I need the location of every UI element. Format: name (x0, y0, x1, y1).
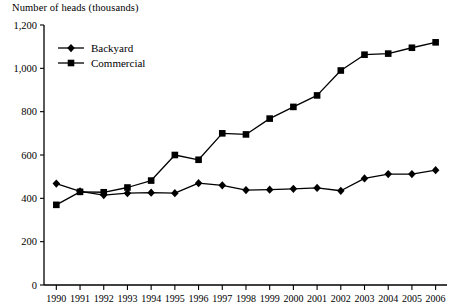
series-marker (100, 189, 107, 196)
legend-item-commercial: Commercial (58, 57, 145, 69)
series-marker (361, 51, 368, 58)
series-marker (195, 179, 203, 187)
x-axis-tick-label: 1993 (117, 293, 137, 304)
x-axis-tick-label: 1995 (165, 293, 185, 304)
series-marker (218, 181, 226, 189)
series-marker (385, 50, 392, 57)
y-axis-tick-label: 1,200 (13, 20, 37, 31)
x-axis-tick-label: 2001 (307, 293, 327, 304)
series-marker (195, 156, 202, 163)
x-axis-tick-label: 1999 (260, 293, 280, 304)
series-marker (77, 189, 84, 196)
y-axis-tick-label: 600 (21, 150, 37, 161)
series-marker (219, 130, 226, 137)
series-marker (337, 67, 344, 74)
series-marker (53, 202, 60, 209)
x-axis-tick-label: 2004 (378, 293, 398, 304)
series-marker (313, 184, 321, 192)
x-axis-tick-label: 2000 (283, 293, 303, 304)
series-marker (53, 179, 61, 187)
x-axis-tick-label: 1992 (94, 293, 114, 304)
series-marker (124, 184, 131, 191)
chart-container: Number of heads (thousands) 020040060080… (0, 0, 451, 308)
x-axis-tick-label: 2006 (426, 293, 446, 304)
series-marker (384, 170, 392, 178)
series-marker (67, 44, 75, 52)
y-axis-tick-label: 0 (32, 280, 37, 291)
series-marker (361, 174, 369, 182)
series-marker (68, 60, 75, 67)
legend-label: Commercial (91, 57, 145, 69)
x-axis-tick-label: 1994 (141, 293, 161, 304)
series-marker (243, 131, 250, 138)
series-marker (147, 189, 155, 197)
series-marker (148, 177, 155, 184)
y-axis-tick-label: 400 (21, 193, 37, 204)
y-axis-tick-label: 200 (21, 236, 37, 247)
x-axis-tick-label: 2005 (402, 293, 422, 304)
series-backyard (53, 166, 440, 199)
series-marker (337, 187, 345, 195)
series-marker (171, 189, 179, 197)
legend-item-backyard: Backyard (58, 42, 134, 54)
x-axis-tick-label: 1997 (212, 293, 232, 304)
legend-label: Backyard (91, 42, 134, 54)
series-marker (314, 92, 321, 99)
y-axis-tick-label: 1,000 (13, 63, 37, 74)
x-axis-tick-label: 2003 (355, 293, 375, 304)
y-axis-tick-label: 800 (21, 106, 37, 117)
series-marker (290, 185, 298, 193)
x-axis-tick-label: 2002 (331, 293, 351, 304)
x-axis-tick-label: 1996 (189, 293, 209, 304)
line-chart-plot: 02004006008001,0001,20019901991199219931… (0, 0, 451, 308)
series-marker (432, 39, 439, 46)
series-marker (432, 166, 440, 174)
x-axis-tick-label: 1990 (46, 293, 66, 304)
x-axis-tick-label: 1998 (236, 293, 256, 304)
series-marker (266, 186, 274, 194)
series-marker (172, 152, 179, 159)
series-marker (290, 104, 297, 111)
series-marker (409, 44, 416, 51)
series-marker (266, 115, 273, 122)
series-marker (408, 170, 416, 178)
x-axis-tick-label: 1991 (70, 293, 90, 304)
series-marker (242, 186, 250, 194)
